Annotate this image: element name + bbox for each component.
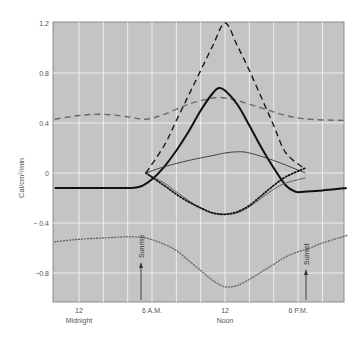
radiation-chart: 1.20.80.40− 0.4−0.8 12Midnight6 A.M.12No… [0, 0, 361, 339]
plot-background [53, 22, 344, 302]
x-axis-ticks: 12Midnight6 A.M.12Noon6 P.M. [66, 307, 308, 325]
x-tick-label: 12 [75, 307, 83, 314]
x-tick-label: 6 A.M. [142, 307, 162, 314]
x-tick-sublabel: Midnight [66, 317, 93, 325]
y-tick-label: 0 [45, 170, 49, 177]
y-axis-label: Cal/cm²/min [17, 158, 26, 198]
y-tick-label: −0.8 [35, 270, 49, 277]
x-tick-label: 6 P.M. [288, 307, 307, 314]
y-axis-ticks: 1.20.80.40− 0.4−0.8 [33, 20, 49, 277]
x-tick-label: 12 [221, 307, 229, 314]
y-tick-label: − 0.4 [33, 220, 49, 227]
y-tick-label: 1.2 [39, 20, 49, 27]
y-tick-label: 0.4 [39, 120, 49, 127]
sunset-label: Sunset [303, 243, 310, 265]
x-tick-sublabel: Noon [217, 317, 234, 324]
sunrise-label: Sunrise [138, 234, 145, 258]
y-tick-label: 0.8 [39, 70, 49, 77]
